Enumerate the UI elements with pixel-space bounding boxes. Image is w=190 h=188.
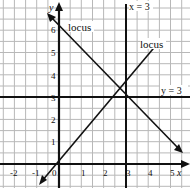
x-axis-label: x — [176, 167, 182, 178]
origin-label: 0 — [52, 168, 57, 178]
x-tick-label: 2 — [103, 168, 108, 178]
horizontal-line-label: y = 3 — [161, 85, 182, 96]
x-axis — [0, 160, 190, 168]
locus-graph: y x 0 -2 -1 1 2 3 4 5 1 2 3 4 5 6 x = 3 … — [0, 0, 190, 188]
locus-1-label: locus — [68, 21, 91, 33]
y-tick-label: 6 — [51, 25, 56, 35]
x-tick-label: 1 — [81, 168, 86, 178]
y-tick-label: 1 — [51, 137, 56, 147]
x-tick-label: -2 — [10, 168, 18, 178]
y-tick-label: 2 — [51, 115, 56, 125]
x-tick-label: 4 — [148, 168, 153, 178]
y-tick-label: 3 — [51, 93, 56, 103]
x-tick-label: -1 — [32, 168, 40, 178]
vertical-line-label: x = 3 — [129, 1, 150, 12]
y-axis-label: y — [48, 2, 54, 13]
x-tick-label: 5 — [170, 168, 175, 178]
y-tick-label: 4 — [51, 71, 56, 81]
y-tick-label: 5 — [51, 48, 56, 58]
y-axis-arrow-icon — [55, 2, 63, 11]
locus-2-label: locus — [140, 38, 163, 50]
x-tick-label: 3 — [126, 168, 131, 178]
x-axis-arrow-icon — [181, 160, 190, 168]
graph-canvas: y x 0 -2 -1 1 2 3 4 5 1 2 3 4 5 6 x = 3 … — [0, 0, 190, 188]
